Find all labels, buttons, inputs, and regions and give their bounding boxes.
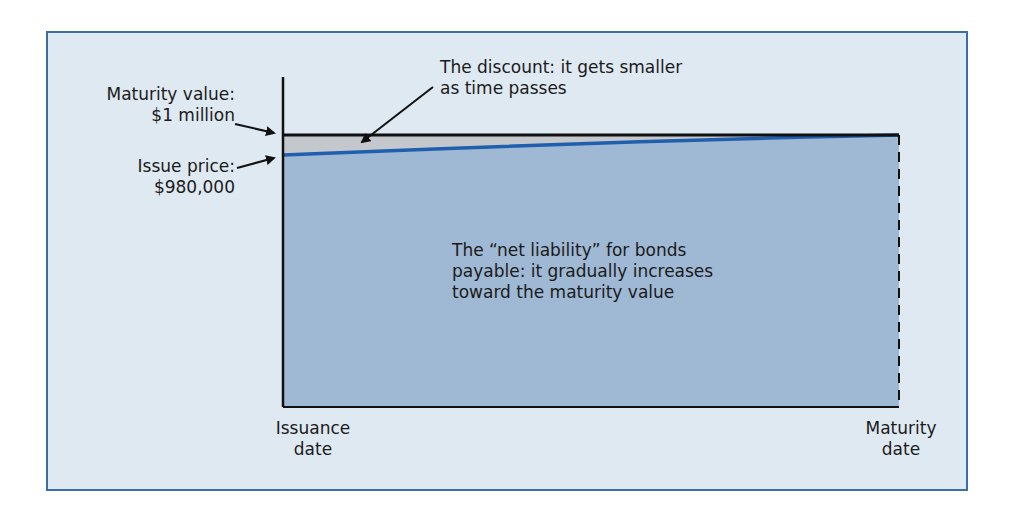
issue-price-label: Issue price: $980,000 bbox=[138, 156, 235, 198]
net-liability-label: The “net liability” for bonds payable: i… bbox=[452, 240, 713, 303]
discount-label: The discount: it gets smaller as time pa… bbox=[440, 57, 682, 99]
issue-price-arrow bbox=[237, 158, 274, 168]
maturity-date-label: Maturity date bbox=[846, 418, 956, 460]
maturity-value-label: Maturity value: $1 million bbox=[106, 84, 235, 126]
maturity-value-arrow bbox=[235, 124, 274, 133]
issuance-date-label: Issuance date bbox=[258, 418, 368, 460]
